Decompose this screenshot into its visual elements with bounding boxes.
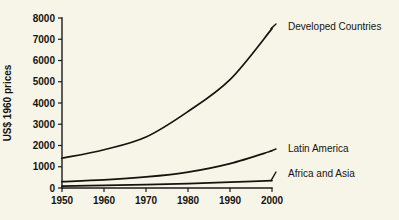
series-label-africa-and-asia: Africa and Asia	[288, 168, 355, 179]
y-axis-title: US$ 1960 prices	[2, 64, 13, 141]
line-chart-canvas: US$ 1960 prices 010002000300040005000600…	[0, 0, 399, 220]
x-tick-label: 2000	[261, 195, 284, 206]
x-tick-label: 1950	[51, 195, 74, 206]
y-tick-label: 6000	[33, 55, 56, 66]
x-tick-label: 1990	[219, 195, 242, 206]
chart-background	[0, 0, 399, 220]
y-tick-label: 8000	[33, 13, 56, 24]
y-tick-label: 2000	[33, 140, 56, 151]
y-tick-label: 1000	[33, 161, 56, 172]
y-tick-label: 7000	[33, 34, 56, 45]
y-tick-label: 0	[49, 183, 55, 194]
x-tick-label: 1970	[135, 195, 158, 206]
series-label-latin-america: Latin America	[288, 143, 349, 154]
x-tick-label: 1980	[177, 195, 200, 206]
y-tick-label: 4000	[33, 98, 56, 109]
chart-figure: US$ 1960 prices 010002000300040005000600…	[0, 0, 399, 220]
y-tick-label: 3000	[33, 119, 56, 130]
x-tick-label: 1960	[93, 195, 116, 206]
series-label-developed-countries: Developed Countries	[288, 21, 381, 32]
y-tick-label: 5000	[33, 76, 56, 87]
